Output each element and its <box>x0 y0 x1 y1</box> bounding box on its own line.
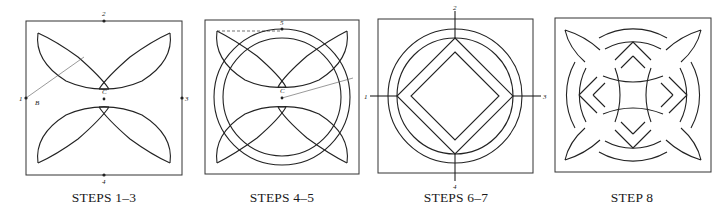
caption-steps-6-7: STEPS 6–7 <box>424 190 488 206</box>
point-label-2: 2 <box>102 10 106 18</box>
petal-bottom-left-outer <box>38 107 109 163</box>
caption-steps-4-5: STEPS 4–5 <box>250 190 314 206</box>
petal-top-left-outer <box>38 33 109 89</box>
panel-steps-4-5: 5 C <box>205 20 359 174</box>
bounding-square <box>555 18 711 172</box>
inner-diamond <box>411 52 499 140</box>
petal-bottom-right-outer <box>99 107 170 163</box>
panel-steps-1-3: 2 1 3 4 C B <box>26 21 182 175</box>
diagram-steps-4-5: 5 C <box>205 20 359 174</box>
petal-top-right-outer <box>99 33 170 89</box>
petal-top-left-inner <box>38 33 109 89</box>
point-label-c: C <box>102 88 107 96</box>
point-label-1: 1 <box>19 95 23 103</box>
petal-top-right-inner <box>99 33 170 89</box>
diagram-step-8-celtic-knot <box>555 18 711 172</box>
point-label-1: 1 <box>364 93 368 101</box>
panel-step-8 <box>555 18 711 172</box>
diagram-steps-6-7: 2 1 3 4 <box>378 19 533 173</box>
point-label-3: 3 <box>542 93 547 101</box>
point-label-2: 2 <box>453 4 457 12</box>
panel-steps-6-7: 2 1 3 4 <box>378 19 533 173</box>
caption-steps-1-3: STEPS 1–3 <box>72 190 136 206</box>
bounding-square <box>378 19 533 173</box>
petal-bottom-left-inner <box>38 107 109 163</box>
point-label-5: 5 <box>280 19 284 27</box>
inner-circle <box>397 38 513 154</box>
outer-circle <box>388 29 522 163</box>
point-label-c: C <box>280 87 285 95</box>
point-label-4: 4 <box>102 178 106 186</box>
compass-line <box>26 57 84 98</box>
compass-mark: B <box>35 99 40 107</box>
petal-bottom-right-inner <box>99 107 170 163</box>
point-label-3: 3 <box>184 95 189 103</box>
diagram-steps-1-3: 2 1 3 4 C B <box>26 21 182 175</box>
caption-step-8: STEP 8 <box>611 190 653 206</box>
outer-diamond <box>397 38 513 154</box>
